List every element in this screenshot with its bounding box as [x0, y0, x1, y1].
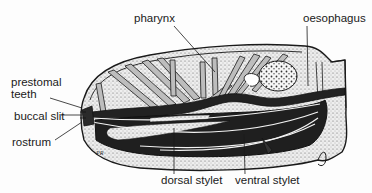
label-dorsal-stylet: dorsal stylet — [161, 174, 222, 186]
label-ventral-stylet: ventral stylet — [235, 174, 300, 186]
label-oesophagus: oesophagus — [303, 12, 366, 24]
artist-initials: PR — [96, 150, 103, 156]
label-prestomal-teeth-line2: teeth — [11, 88, 62, 100]
label-prestomal-teeth-line1: prestomal — [11, 76, 62, 88]
label-rostrum: rostrum — [12, 136, 51, 148]
diagram-canvas: pharynx oesophagus prestomal teeth bucca… — [0, 0, 372, 193]
gland-body — [259, 61, 297, 91]
label-pharynx: pharynx — [134, 12, 175, 24]
label-buccal-slit: buccal slit — [14, 110, 65, 122]
label-prestomal-teeth: prestomal teeth — [11, 76, 62, 100]
leader-rostrum — [55, 122, 82, 140]
